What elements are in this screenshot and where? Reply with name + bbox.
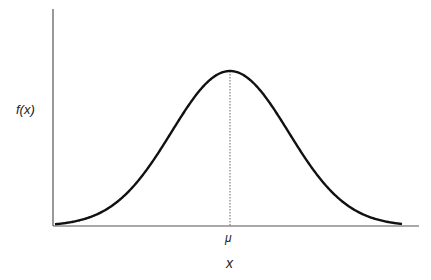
mean-tick-label: μ xyxy=(225,231,232,245)
density-curve xyxy=(55,71,402,224)
x-axis-label: x xyxy=(226,255,233,271)
y-axis-label-text: f(x) xyxy=(16,102,35,117)
y-axis-label: f(x) xyxy=(16,102,35,117)
chart-canvas xyxy=(0,0,431,280)
